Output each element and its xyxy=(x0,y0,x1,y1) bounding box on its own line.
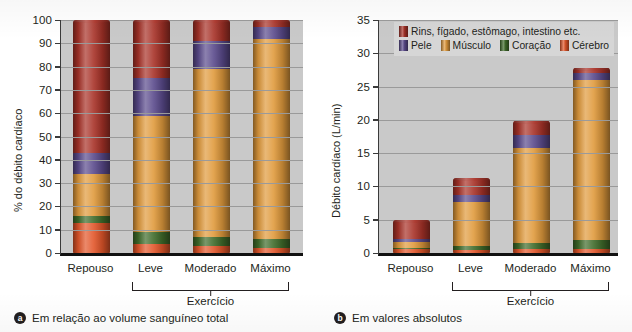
bar-segment-heart xyxy=(73,216,110,223)
legend-label-brain: Cérebro xyxy=(572,39,609,53)
bar-segment-heart xyxy=(453,246,490,250)
legend: Rins, fígado, estômago, intestino etc. P… xyxy=(394,22,614,56)
legend-label-heart: Coração xyxy=(512,39,551,53)
bar-segment-brain xyxy=(393,249,430,253)
caption-text-a: Em relação ao volume sanguíneo total xyxy=(32,312,228,324)
bar-segment-muscle xyxy=(73,174,110,216)
y-axis-tick-label: 20 xyxy=(357,114,370,126)
bar-segment-muscle xyxy=(453,202,490,246)
bar-segment-skin xyxy=(73,153,110,174)
y-axis-tick-label: 100 xyxy=(33,14,53,26)
caption-marker-a: a xyxy=(14,312,26,324)
gridline xyxy=(61,113,303,114)
bar-segment-skin xyxy=(453,195,490,202)
bar-segment-brain xyxy=(573,249,610,253)
y-axis-tick xyxy=(373,153,379,155)
gridline xyxy=(61,183,303,184)
bar-segment-heart xyxy=(393,248,430,249)
legend-label-viscera: Rins, fígado, estômago, intestino etc. xyxy=(411,25,580,39)
bar-segment-heart xyxy=(193,237,230,246)
y-axis-tick xyxy=(373,219,379,221)
bar-segment-brain xyxy=(453,250,490,253)
y-axis-tick-label: 10 xyxy=(357,180,370,192)
y-axis-tick-label: 90 xyxy=(39,37,52,49)
y-axis-tick-label: 25 xyxy=(357,81,370,93)
bar-segment-skin xyxy=(253,27,290,39)
y-axis-tick xyxy=(55,183,61,185)
bar-segment-muscle xyxy=(393,242,430,248)
bar-segment-viscera xyxy=(133,20,170,78)
bar-segment-muscle xyxy=(573,80,610,240)
y-axis-tick xyxy=(55,66,61,68)
bar-segment-skin xyxy=(193,41,230,69)
y-axis-tick xyxy=(55,20,61,22)
caption-marker-b: b xyxy=(334,312,346,324)
y-axis-tick-label: 40 xyxy=(39,154,52,166)
legend-item-brain: Cérebro xyxy=(560,39,609,53)
y-axis-tick xyxy=(55,136,61,138)
bar-leve xyxy=(453,178,490,253)
y-axis-tick xyxy=(373,86,379,88)
y-axis-tick-label: 0 xyxy=(46,247,53,259)
legend-row-1: Rins, fígado, estômago, intestino etc. xyxy=(399,25,609,39)
caption-a: a Em relação ao volume sanguíneo total xyxy=(14,312,228,324)
bar-segment-skin xyxy=(393,239,430,242)
bar-máximo xyxy=(573,68,610,253)
y-axis-tick xyxy=(55,229,61,231)
bar-segment-muscle xyxy=(133,116,170,233)
bar-segment-viscera xyxy=(193,20,230,41)
gridline xyxy=(379,20,618,21)
gridline xyxy=(61,160,303,161)
plot-area-a: 0102030405060708090100 xyxy=(60,20,303,256)
gridline xyxy=(379,153,618,154)
bar-segment-brain xyxy=(193,246,230,253)
bar-segment-viscera xyxy=(393,220,430,238)
gridline xyxy=(379,120,618,121)
y-axis-tick xyxy=(373,253,379,255)
y-axis-tick xyxy=(55,159,61,161)
y-axis-tick-label: 30 xyxy=(39,177,52,189)
bar-segment-heart xyxy=(253,239,290,248)
exercise-bracket-label-a: Exercício xyxy=(161,295,261,307)
legend-swatch-viscera xyxy=(399,26,408,37)
exercise-bracket-b xyxy=(452,282,609,291)
y-axis-tick-label: 70 xyxy=(39,84,52,96)
bar-repouso xyxy=(393,220,430,253)
legend-swatch-skin xyxy=(399,40,408,51)
bar-segment-skin xyxy=(573,73,610,80)
bar-segment-brain xyxy=(253,248,290,253)
y-axis-tick-label: 80 xyxy=(39,61,52,73)
y-axis-tick xyxy=(373,53,379,55)
y-axis-tick xyxy=(55,113,61,115)
gridline xyxy=(61,67,303,68)
gridline xyxy=(61,90,303,91)
category-label-máximo: Máximo xyxy=(231,262,311,274)
legend-swatch-muscle xyxy=(441,40,450,51)
exercise-bracket-label-b: Exercício xyxy=(481,295,581,307)
gridline xyxy=(61,43,303,44)
y-axis-tick-label: 30 xyxy=(357,47,370,59)
gridline xyxy=(379,87,618,88)
y-axis-tick xyxy=(373,119,379,121)
y-axis-tick xyxy=(373,186,379,188)
caption-b: b Em valores absolutos xyxy=(334,312,462,324)
y-axis-title-a: % do débito cardíaco xyxy=(12,109,24,212)
panel-a: % do débito cardíaco 0102030405060708090… xyxy=(0,0,316,332)
bar-segment-muscle xyxy=(513,148,550,243)
y-axis-tick xyxy=(55,253,61,255)
bar-segment-muscle xyxy=(253,39,290,239)
gridline xyxy=(61,137,303,138)
legend-item-heart: Coração xyxy=(500,39,551,53)
legend-item-skin: Pele xyxy=(399,39,432,53)
y-axis-title-b: Débito cardíaco (L/min) xyxy=(330,104,342,218)
y-axis-tick xyxy=(373,20,379,22)
y-axis-tick-label: 35 xyxy=(357,14,370,26)
y-axis-tick-label: 20 xyxy=(39,200,52,212)
legend-label-skin: Pele xyxy=(411,39,432,53)
bar-segment-brain xyxy=(73,223,110,253)
y-axis-tick-label: 5 xyxy=(364,214,371,226)
legend-row-2: Pele Músculo Coração Cérebro xyxy=(399,39,609,53)
y-axis-tick-label: 60 xyxy=(39,107,52,119)
y-axis-tick-label: 50 xyxy=(39,131,52,143)
y-axis-tick-label: 10 xyxy=(39,224,52,236)
